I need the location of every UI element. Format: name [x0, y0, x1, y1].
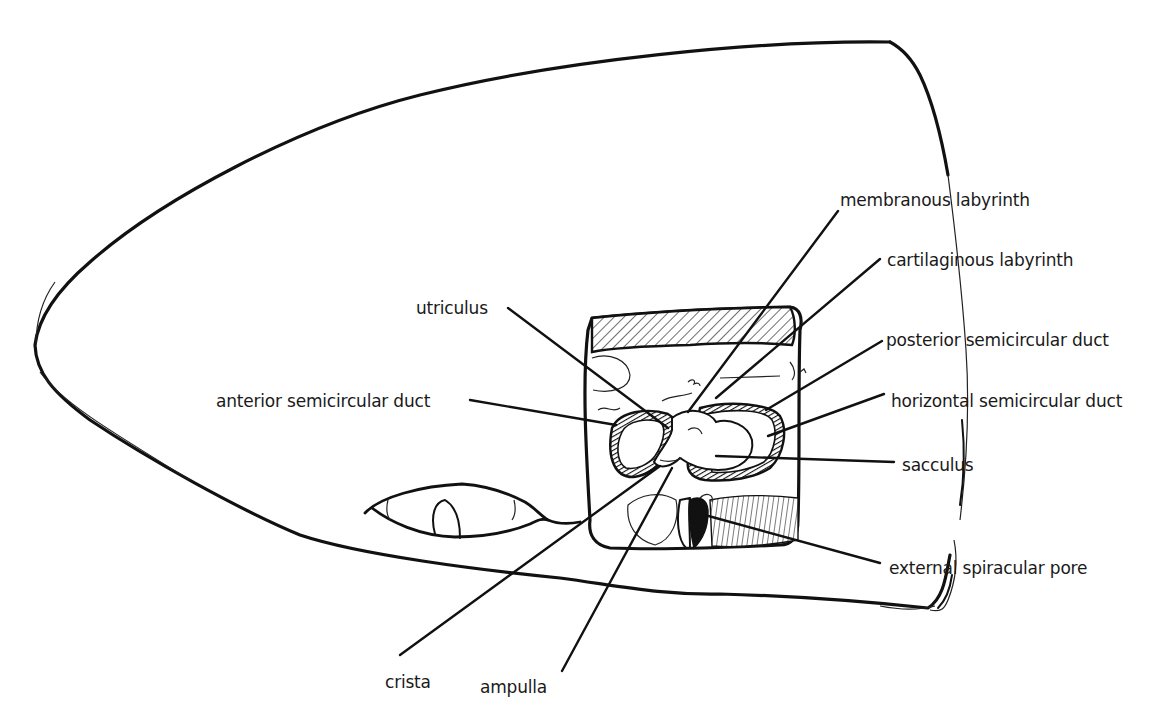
anatomical-diagram: membranous labyrinth cartilaginous labyr…: [0, 0, 1168, 717]
label-cartilaginous-labyrinth: cartilaginous labyrinth: [887, 250, 1073, 270]
label-crista: crista: [385, 672, 431, 692]
label-utriculus: utriculus: [416, 298, 488, 318]
label-membranous-labyrinth: membranous labyrinth: [840, 190, 1030, 210]
leader-posterior-semicircular-duct: [766, 341, 882, 410]
eye: [365, 484, 580, 538]
leader-horizontal-semicircular-duct: [768, 394, 884, 436]
label-sacculus: sacculus: [902, 455, 974, 475]
label-anterior-semicircular-duct: anterior semicircular duct: [216, 391, 430, 411]
shark-head-drawing: [0, 0, 1168, 717]
label-external-spiracular-pore: external spiracular pore: [889, 558, 1087, 578]
label-ampulla: ampulla: [480, 677, 547, 697]
head-outline: [35, 42, 968, 611]
label-posterior-semicircular-duct: posterior semicircular duct: [886, 330, 1109, 350]
label-horizontal-semicircular-duct: horizontal semicircular duct: [891, 391, 1122, 411]
leader-anterior-semicircular-duct: [470, 400, 616, 425]
